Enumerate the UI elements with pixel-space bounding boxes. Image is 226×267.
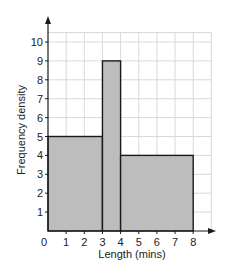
x-tick-label: 5 (136, 236, 142, 248)
y-tick-label: 2 (37, 187, 43, 199)
histogram-bar (48, 137, 102, 232)
y-tick-label: 5 (37, 131, 43, 143)
histogram-bar (102, 61, 120, 231)
x-tick-label: 2 (81, 236, 87, 248)
x-axis-arrow-icon (208, 228, 216, 234)
y-tick-labels: 12345678910 (31, 36, 48, 218)
y-tick-label: 8 (37, 74, 43, 86)
histogram-bar (121, 155, 194, 231)
histogram-chart: 012345678 12345678910 Length (mins) Freq… (0, 0, 226, 267)
y-tick-label: 4 (37, 149, 43, 161)
x-tick-label: 1 (63, 236, 69, 248)
y-tick-label: 9 (37, 55, 43, 67)
x-tick-label: 8 (190, 236, 196, 248)
y-axis-title: Frequency density (15, 85, 27, 175)
x-axis-title: Length (mins) (98, 248, 165, 260)
x-tick-label: 0 (41, 236, 47, 248)
x-tick-label: 7 (172, 236, 178, 248)
y-tick-label: 6 (37, 112, 43, 124)
x-tick-label: 4 (118, 236, 124, 248)
y-tick-label: 1 (37, 206, 43, 218)
y-tick-label: 3 (37, 168, 43, 180)
x-tick-label: 6 (154, 236, 160, 248)
x-tick-label: 3 (99, 236, 105, 248)
y-tick-label: 7 (37, 93, 43, 105)
y-axis-arrow-icon (45, 16, 51, 24)
histogram-bars (48, 61, 193, 231)
y-tick-label: 10 (31, 36, 43, 48)
x-tick-labels: 012345678 (41, 231, 196, 248)
